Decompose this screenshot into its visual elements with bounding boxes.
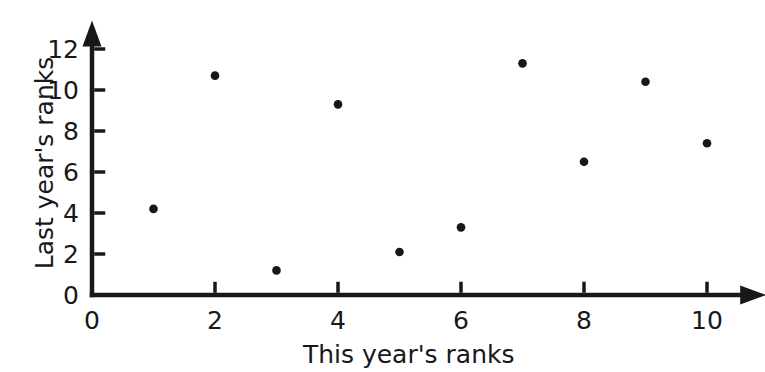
data-point [641,78,650,87]
data-points-group [149,59,711,275]
axis-ticks-group [94,49,707,293]
data-point [703,139,712,148]
x-tick-label-2: 2 [207,308,223,333]
scatter-plot-figure: 0246810024681012 This year's ranks Last … [0,0,765,372]
data-point [580,157,589,166]
x-tick-label-8: 8 [576,308,592,333]
x-tick-label-6: 6 [453,308,469,333]
data-point [272,266,281,275]
data-point [395,248,404,257]
x-tick-label-4: 4 [330,308,346,333]
data-point [457,223,466,232]
x-tick-label-0: 0 [84,308,100,333]
y-tick-label-6: 6 [63,160,79,185]
axes-group [83,21,765,305]
y-axis-title: Last year's ranks [32,56,57,269]
plot-canvas [0,0,765,372]
data-point [211,71,220,80]
y-tick-label-8: 8 [63,119,79,144]
y-tick-label-0: 0 [63,283,79,308]
data-point [149,205,158,214]
x-axis-title: This year's ranks [303,342,515,367]
data-point [334,100,343,109]
x-axis-arrowhead [740,286,765,305]
y-tick-label-2: 2 [63,242,79,267]
data-point [518,59,527,68]
x-tick-label-10: 10 [691,308,723,333]
y-tick-label-4: 4 [63,201,79,226]
y-axis-arrowhead [83,21,102,47]
